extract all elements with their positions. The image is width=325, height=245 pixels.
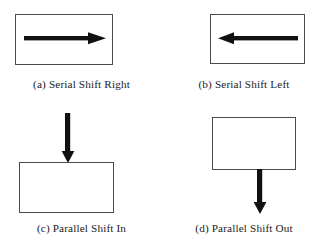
arrow-left-icon xyxy=(218,31,298,45)
caption-a: (a) Serial Shift Right xyxy=(0,78,163,91)
caption-b: (b) Serial Shift Left xyxy=(163,78,325,91)
shift-register-figure: (a) Serial Shift Right (b) Serial Shift … xyxy=(0,0,325,245)
register-box-c xyxy=(19,162,114,213)
caption-c: (c) Parallel Shift In xyxy=(0,222,163,235)
arrow-right-icon xyxy=(24,31,106,45)
register-box-d xyxy=(212,117,296,170)
arrow-down-icon xyxy=(252,169,268,214)
arrow-down-icon xyxy=(60,113,76,163)
caption-d: (d) Parallel Shift Out xyxy=(163,222,325,235)
